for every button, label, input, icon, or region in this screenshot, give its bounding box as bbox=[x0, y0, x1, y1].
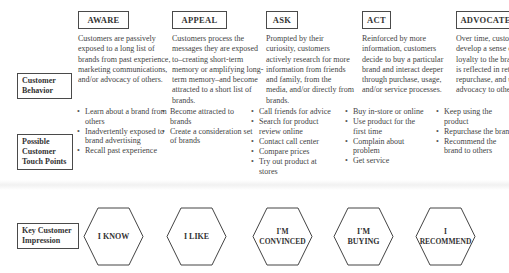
impression-hexagon-advocate: I RECOMMEND bbox=[415, 207, 476, 266]
impression-label: I'M BUYING bbox=[333, 207, 394, 266]
impression-label: I KNOW bbox=[83, 207, 144, 266]
touch-points-aware: Learn about a brand from others Inadvert… bbox=[76, 107, 168, 156]
touch-point: Buy in-store or online bbox=[344, 107, 428, 117]
stage-header-advocate: ADVOCATE bbox=[456, 11, 509, 29]
touch-points-act: Buy in-store or online Use product for t… bbox=[344, 107, 428, 167]
touch-point: Repurchase the brand bbox=[435, 127, 509, 137]
touch-point: Learn about a brand from others bbox=[76, 107, 168, 126]
touch-point: Compare prices bbox=[250, 147, 332, 157]
touch-point: Call friends for advice bbox=[250, 107, 332, 117]
impression-label: I LIKE bbox=[166, 207, 227, 266]
impression-hexagon-appeal: I LIKE bbox=[166, 207, 227, 266]
touch-point: Use product for the first time bbox=[344, 117, 428, 136]
touch-points-advocate: Keep using the product Repurchase the br… bbox=[435, 107, 509, 156]
touch-point: Keep using the product bbox=[435, 107, 509, 126]
touch-point: Create a consideration set of brands bbox=[161, 127, 253, 146]
impression-label: I RECOMMEND bbox=[415, 207, 476, 266]
stage-header-appeal: APPEAL bbox=[172, 11, 227, 29]
stage-header-aware: AWARE bbox=[78, 11, 129, 29]
touch-point: Complain about problem bbox=[344, 137, 428, 156]
stage-header-ask: ASK bbox=[266, 11, 298, 29]
behavior-aware: Customers are passively exposed to a lon… bbox=[78, 34, 172, 85]
behavior-appeal: Customers process the messages they are … bbox=[172, 34, 266, 106]
impression-hexagon-ask: I'M CONVINCED bbox=[252, 207, 313, 266]
row-label-customer-behavior: Customer Behavior bbox=[17, 73, 72, 99]
touch-point: Become attracted to brands bbox=[161, 107, 253, 126]
touch-point: Contact call center bbox=[250, 137, 332, 147]
impression-hexagon-aware: I KNOW bbox=[83, 207, 144, 266]
impression-label: I'M CONVINCED bbox=[252, 207, 313, 266]
touch-point: Get service bbox=[344, 156, 428, 166]
touch-point: Recommend the brand to others bbox=[435, 137, 509, 156]
touch-point: Recall past experience bbox=[76, 146, 168, 156]
behavior-advocate: Over time, customers may develop a sense… bbox=[456, 34, 509, 96]
touch-point: Inadvertently exposed to brand advertisi… bbox=[76, 127, 168, 146]
row-label-touch-points: Possible Customer Touch Points bbox=[17, 134, 73, 170]
divider-band bbox=[0, 180, 509, 190]
touch-points-appeal: Become attracted to brands Create a cons… bbox=[161, 107, 253, 146]
behavior-ask: Prompted by their curiosity, customers a… bbox=[266, 34, 354, 106]
touch-points-ask: Call friends for advice Search for produ… bbox=[250, 107, 332, 177]
behavior-act: Reinforced by more information, customer… bbox=[362, 34, 454, 96]
stage-header-act: ACT bbox=[362, 11, 391, 29]
impression-hexagon-act: I'M BUYING bbox=[333, 207, 394, 266]
touch-point: Try out product at stores bbox=[250, 157, 332, 176]
row-label-key-impression: Key Customer Impression bbox=[17, 223, 79, 249]
touch-point: Search for product review online bbox=[250, 117, 332, 136]
